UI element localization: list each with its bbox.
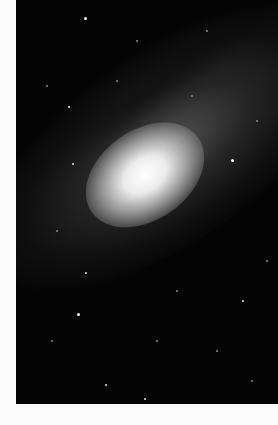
- star: [156, 340, 158, 342]
- star: [256, 120, 258, 122]
- star: [191, 95, 193, 97]
- star: [266, 260, 268, 262]
- star: [46, 85, 48, 87]
- star: [144, 398, 146, 400]
- star: [206, 30, 208, 32]
- star: [251, 380, 253, 382]
- star: [176, 290, 178, 292]
- star: [72, 163, 74, 165]
- star: [56, 230, 58, 232]
- star: [68, 106, 70, 108]
- star: [85, 272, 87, 274]
- star: [216, 350, 218, 352]
- galaxy-photo: [16, 0, 278, 404]
- star: [51, 340, 53, 342]
- star: [105, 384, 107, 386]
- star: [136, 40, 138, 42]
- star: [231, 159, 234, 162]
- star: [242, 300, 244, 302]
- star: [77, 313, 80, 316]
- star: [116, 80, 118, 82]
- star: [84, 17, 87, 20]
